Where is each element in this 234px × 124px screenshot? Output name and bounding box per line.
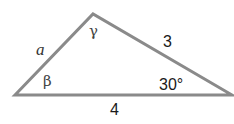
side-a-label: a <box>36 40 45 59</box>
triangle-diagram: a 3 4 γ β 30° <box>0 0 234 124</box>
angle-gamma-label: γ <box>89 22 98 40</box>
angle-30-label: 30° <box>159 76 183 93</box>
angle-beta-label: β <box>43 72 52 90</box>
side-right-label: 3 <box>163 33 172 50</box>
side-bottom-label: 4 <box>110 101 119 118</box>
